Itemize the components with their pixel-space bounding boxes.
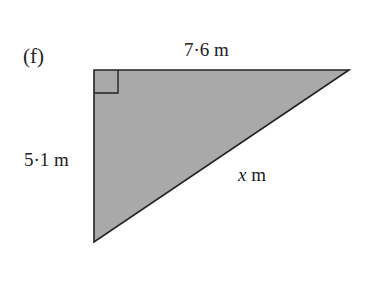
top-side-label: 7·6 m bbox=[184, 40, 229, 59]
hypotenuse-label: x m bbox=[238, 165, 266, 184]
left-side-label: 5·1 m bbox=[24, 150, 69, 169]
right-triangle bbox=[94, 70, 349, 242]
hypotenuse-unit: m bbox=[246, 164, 266, 185]
